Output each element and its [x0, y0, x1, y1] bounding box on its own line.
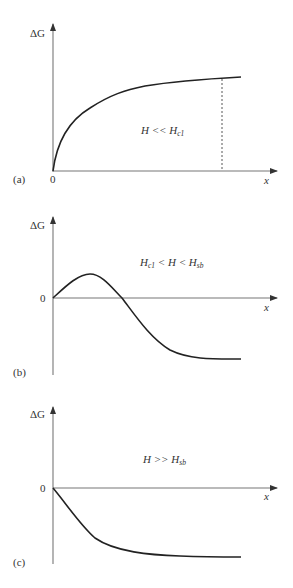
origin-label: 0: [40, 482, 46, 494]
panel-tag: (c): [13, 556, 26, 569]
panel-b: ΔG x 0 (b) Hc1 < H < Hsb: [13, 217, 277, 379]
curve: [53, 274, 241, 359]
condition-label: H << Hc1: [140, 124, 184, 138]
x-axis-label: x: [263, 490, 269, 502]
panel-tag: (a): [13, 173, 26, 186]
x-axis-label: x: [263, 301, 269, 313]
y-axis-label: ΔG: [30, 219, 45, 231]
y-axis-label: ΔG: [30, 27, 45, 39]
figure: ΔG x 0 (a) H << Hc1 ΔG x 0 (b) Hc1 < H <…: [0, 0, 293, 588]
panel-tag: (b): [13, 366, 26, 379]
origin-label: 0: [50, 173, 56, 185]
condition-label: Hc1 < H < Hsb: [139, 256, 204, 270]
y-axis-label: ΔG: [30, 408, 45, 420]
origin-label: 0: [40, 292, 46, 304]
curve: [53, 488, 241, 557]
condition-label: H >> Hsb: [142, 453, 186, 467]
x-axis-label: x: [263, 174, 269, 186]
panel-c: ΔG x 0 (c) H >> Hsb: [13, 407, 277, 569]
panel-a: ΔG x 0 (a) H << Hc1: [13, 24, 277, 186]
